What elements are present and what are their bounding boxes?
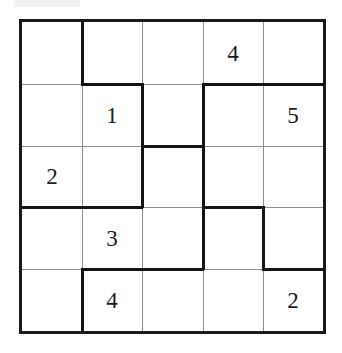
grid-cell-r5-c4[interactable] (203, 269, 263, 331)
grid-cell-r2-c5[interactable]: 5 (263, 84, 323, 146)
cell-value: 2 (287, 289, 299, 312)
grid-cell-r3-c2[interactable] (82, 146, 142, 207)
grid-cell-r2-c4[interactable] (203, 84, 263, 146)
grid-cell-r1-c4[interactable]: 4 (203, 22, 263, 84)
grid-cell-r5-c1[interactable] (22, 269, 82, 331)
grid-cell-r1-c1[interactable] (22, 22, 82, 84)
cell-value: 5 (287, 104, 299, 127)
grid-inner: 4152342 (22, 22, 323, 331)
grid-cell-r2-c3[interactable] (142, 84, 203, 146)
grid-cell-r1-c2[interactable] (82, 22, 142, 84)
grid-cell-r1-c3[interactable] (142, 22, 203, 84)
grid-cell-r2-c1[interactable] (22, 84, 82, 146)
cell-value: 1 (106, 104, 118, 127)
grid-cell-r4-c2[interactable]: 3 (82, 207, 142, 269)
puzzle-grid[interactable]: 4152342 (19, 19, 326, 334)
grid-cell-r4-c3[interactable] (142, 207, 203, 269)
scan-artifact (14, 0, 80, 7)
cell-value: 2 (46, 165, 58, 188)
grid-cell-r3-c1[interactable]: 2 (22, 146, 82, 207)
cell-value: 4 (227, 42, 239, 65)
grid-cell-r5-c5[interactable]: 2 (263, 269, 323, 331)
cell-value: 3 (106, 227, 118, 250)
grid-cell-r5-c3[interactable] (142, 269, 203, 331)
grid-cell-r3-c4[interactable] (203, 146, 263, 207)
grid-cell-r5-c2[interactable]: 4 (82, 269, 142, 331)
grid-cell-r2-c2[interactable]: 1 (82, 84, 142, 146)
grid-cell-r4-c1[interactable] (22, 207, 82, 269)
grid-cell-r1-c5[interactable] (263, 22, 323, 84)
cell-value: 4 (106, 289, 118, 312)
grid-cell-r3-c3[interactable] (142, 146, 203, 207)
grid-cell-r4-c4[interactable] (203, 207, 263, 269)
grid-cell-r3-c5[interactable] (263, 146, 323, 207)
grid-cell-r4-c5[interactable] (263, 207, 323, 269)
